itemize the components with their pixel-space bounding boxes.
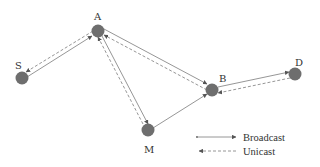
legend-unicast-label: Unicast (243, 146, 275, 157)
node-m-label: M (144, 144, 154, 155)
edge-b-d-broadcast (218, 72, 289, 87)
edge-m-b-broadcast (153, 94, 207, 128)
edge-b-a-unicast (104, 35, 207, 90)
node-d: D (289, 57, 304, 81)
node-m: M (142, 124, 155, 156)
network-diagram: S A B D M Broadcast Unicast (0, 0, 320, 167)
legend-broadcast-label: Broadcast (243, 132, 285, 143)
node-b-label: B (219, 73, 226, 84)
node-s-label: S (15, 60, 22, 71)
edge-m-a-unicast (98, 37, 143, 124)
node-a: A (92, 11, 105, 38)
node-a-label: A (93, 11, 102, 22)
node-d-label: D (295, 57, 303, 68)
legend: Broadcast Unicast (196, 132, 285, 157)
node-s: S (15, 60, 29, 85)
edge-d-b-unicast (218, 78, 290, 93)
edge-a-s-unicast (26, 31, 93, 72)
edge-s-a-broadcast (27, 36, 92, 77)
edge-a-b-broadcast (104, 29, 207, 84)
node-b: B (206, 73, 227, 97)
